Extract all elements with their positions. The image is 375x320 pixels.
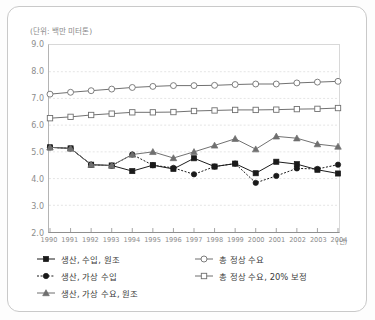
filled-circle-marker (315, 166, 320, 171)
open-circle-marker (191, 83, 197, 89)
legend-label: 생산, 수입, 원조 (61, 253, 120, 265)
open-circle-marker (109, 86, 115, 92)
series-layer (49, 45, 339, 232)
legend-symbol (194, 253, 214, 265)
open-circle-marker (253, 81, 259, 87)
open-square-marker (232, 107, 237, 112)
open-square-marker (294, 106, 299, 111)
x-tick-label: 1994 (123, 236, 140, 244)
x-tick-label: 1999 (227, 236, 244, 244)
x-tick-label: 1990 (41, 236, 58, 244)
filled-triangle-marker (232, 136, 239, 142)
open-circle-marker (314, 79, 320, 85)
x-tick-label: 2004 (331, 236, 348, 244)
legend-symbol (36, 287, 56, 299)
legend-item[interactable]: 생산, 수입, 원조 (36, 252, 120, 266)
x-tick-label: 1993 (103, 236, 120, 244)
filled-circle-marker (191, 172, 196, 177)
y-tick-label: 8.0 (22, 67, 44, 76)
x-tick-label: 1991 (61, 236, 78, 244)
y-tick-label: 4.0 (22, 175, 44, 184)
filled-triangle-marker (150, 149, 157, 155)
open-circle-marker (212, 82, 218, 88)
series-open-circle (47, 78, 341, 97)
legend-item[interactable]: 총 정상 수요 (194, 252, 264, 266)
filled-circle-marker (274, 173, 279, 178)
filled-circle-marker (171, 165, 176, 170)
y-tick-label: 5.0 (22, 148, 44, 157)
x-tick-label: 1997 (186, 236, 203, 244)
filled-square-marker (43, 256, 48, 261)
open-square-marker (150, 110, 155, 115)
open-square-marker (109, 111, 114, 116)
legend-label: 총 정상 수요 (219, 253, 264, 265)
x-tick-label: 1998 (206, 236, 223, 244)
legend-label: 생산, 가상 수입 (61, 270, 117, 282)
filled-square-marker (191, 156, 196, 161)
open-square-marker (315, 106, 320, 111)
open-square-marker (274, 107, 279, 112)
y-tick-label: 6.0 (22, 121, 44, 130)
open-circle-marker (335, 78, 341, 84)
x-tick-label: 2001 (268, 236, 285, 244)
open-square-marker (47, 116, 52, 121)
legend-symbol (194, 270, 214, 282)
legend-item[interactable]: 총 정상 수요, 20% 보정 (194, 269, 307, 283)
open-circle-marker (88, 88, 94, 94)
filled-triangle-marker (273, 133, 280, 139)
open-circle-marker (273, 81, 279, 87)
filled-circle-marker (294, 166, 299, 171)
filled-circle-marker (253, 180, 258, 185)
open-circle-marker (294, 80, 300, 86)
open-square-marker (68, 114, 73, 119)
open-square-marker (253, 107, 258, 112)
plot-area (48, 44, 340, 233)
open-circle-marker (129, 85, 135, 91)
open-circle-marker (150, 83, 156, 89)
legend-label: 총 정상 수요, 20% 보정 (219, 270, 307, 282)
x-tick-label: 2002 (289, 236, 306, 244)
filled-circle-marker (212, 164, 217, 169)
open-square-marker (88, 112, 93, 117)
legend-label: 생산, 가상 수요, 원조 (61, 287, 138, 299)
filled-circle-marker (232, 161, 237, 166)
legend-item[interactable]: 생산, 가상 수요, 원조 (36, 286, 138, 300)
y-tick-label: 3.0 (22, 202, 44, 211)
series-open-square (47, 105, 340, 120)
legend-item[interactable]: 생산, 가상 수입 (36, 269, 117, 283)
open-circle-marker (232, 82, 238, 88)
open-square-marker (335, 105, 340, 110)
open-circle-marker (170, 83, 176, 89)
open-square-marker (201, 273, 206, 278)
open-circle-marker (68, 89, 74, 95)
y-axis-tick-labels: 9.08.07.06.05.04.03.02.0 (22, 44, 44, 233)
chart-page: (단위: 백만 미터톤) 9.08.07.06.05.04.03.02.0 (년… (0, 0, 375, 320)
x-tick-label: 2003 (310, 236, 327, 244)
filled-square-marker (335, 171, 340, 176)
filled-triangle-marker (252, 146, 259, 152)
open-square-marker (191, 108, 196, 113)
chart-legend: 생산, 수입, 원조생산, 가상 수입생산, 가상 수요, 원조총 정상 수요총… (36, 252, 346, 304)
open-square-marker (130, 110, 135, 115)
x-axis-tick-labels: (년) 199019911992199319941995199619971998… (48, 236, 340, 250)
y-axis-unit-label: (단위: 백만 미터톤) (30, 25, 92, 36)
filled-square-marker (253, 171, 258, 176)
filled-square-marker (130, 169, 135, 174)
open-square-marker (212, 108, 217, 113)
x-tick-label: 1996 (165, 236, 182, 244)
open-circle-marker (47, 91, 53, 97)
legend-symbol (36, 253, 56, 265)
open-square-marker (171, 109, 176, 114)
filled-square-marker (274, 159, 279, 164)
x-tick-label: 2000 (248, 236, 265, 244)
x-tick-label: 1995 (144, 236, 161, 244)
legend-symbol (36, 270, 56, 282)
x-tick-label: 1992 (82, 236, 99, 244)
y-tick-label: 9.0 (22, 40, 44, 49)
y-tick-label: 7.0 (22, 94, 44, 103)
filled-circle-marker (43, 273, 48, 278)
open-circle-marker (201, 256, 207, 262)
filled-circle-marker (335, 162, 340, 167)
filled-circle-marker (150, 163, 155, 168)
